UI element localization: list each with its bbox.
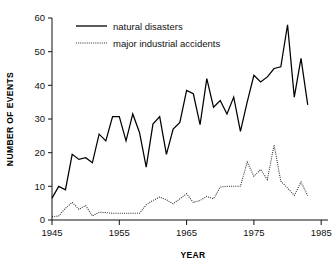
legend-label-major-industrial-accidents: major industrial accidents [113,38,220,49]
chart-figure: 0 10 20 30 40 50 60 1945 1955 1965 1975 … [0,0,335,267]
x-tick-label-1945: 1945 [41,227,62,238]
y-axis-ticks [48,18,52,220]
y-tick-label-40: 40 [34,80,45,91]
y-tick-label-10: 10 [34,181,45,192]
series-natural-disasters [52,25,308,198]
x-tick-label-1965: 1965 [176,227,197,238]
x-axis-ticks [52,220,321,225]
series-major-industrial-accidents [52,145,308,217]
y-axis-title: NUMBER OF EVENTS [5,72,15,166]
legend-label-natural-disasters: natural disasters [113,21,183,32]
x-axis-title: YEAR [180,250,205,260]
x-tick-label-1985: 1985 [311,227,332,238]
y-tick-label-50: 50 [34,46,45,57]
x-tick-label-1955: 1955 [109,227,130,238]
y-tick-label-20: 20 [34,147,45,158]
y-tick-label-30: 30 [34,113,45,124]
x-axis-tick-labels: 1945 1955 1965 1975 1985 [41,227,331,238]
y-axis-tick-labels: 0 10 20 30 40 50 60 [34,12,45,225]
y-tick-label-60: 60 [34,12,45,23]
chart-canvas: 0 10 20 30 40 50 60 1945 1955 1965 1975 … [0,0,335,267]
legend: natural disasters major industrial accid… [76,21,220,49]
x-tick-label-1975: 1975 [243,227,264,238]
y-tick-label-0: 0 [40,214,45,225]
